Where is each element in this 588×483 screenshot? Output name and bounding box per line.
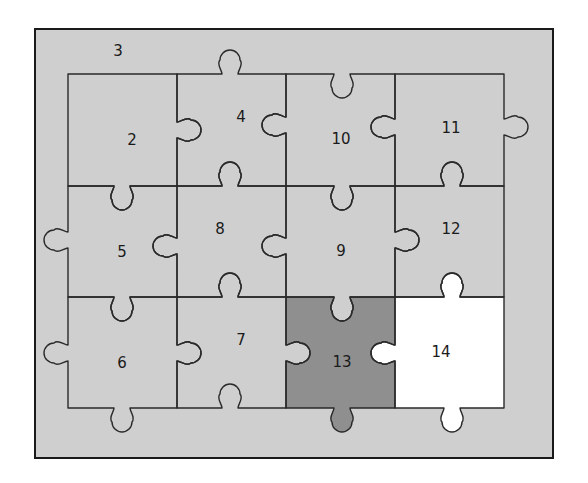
piece-label-5: 5 [117, 243, 127, 261]
puzzle-canvas [0, 0, 588, 483]
piece-label-9: 9 [336, 242, 346, 260]
piece-label-12: 12 [441, 220, 460, 238]
piece-label-8: 8 [215, 220, 225, 238]
piece-label-2: 2 [127, 131, 137, 149]
jigsaw-puzzle-diagram: 3 2 4 10 11 5 8 9 12 6 7 13 14 [0, 0, 588, 483]
piece-label-13: 13 [332, 353, 351, 371]
piece-label-14: 14 [431, 343, 450, 361]
piece-label-7: 7 [236, 331, 246, 349]
piece-label-11: 11 [441, 119, 460, 137]
piece-label-6: 6 [117, 354, 127, 372]
piece-label-10: 10 [331, 130, 350, 148]
frame-label: 3 [113, 42, 123, 60]
piece-label-4: 4 [236, 108, 246, 126]
